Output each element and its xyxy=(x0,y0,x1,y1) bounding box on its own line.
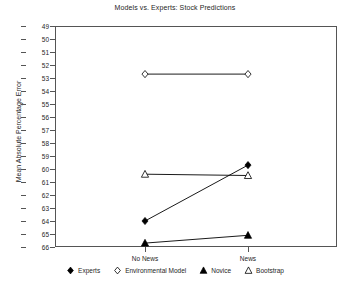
series-experts xyxy=(142,162,251,225)
series-line xyxy=(145,174,248,175)
series-layer xyxy=(0,0,350,288)
series-line xyxy=(145,165,248,221)
chart-legend: ExpertsEnvironmental ModelNoviceBootstra… xyxy=(0,266,350,275)
filled-triangle-icon xyxy=(199,266,208,275)
data-point-marker xyxy=(142,217,148,224)
data-point-marker xyxy=(142,71,148,78)
series-environmental-model xyxy=(142,71,251,78)
legend-item[interactable]: Environmental Model xyxy=(113,266,186,275)
filled-diamond-icon xyxy=(66,266,75,275)
data-point-marker xyxy=(245,71,251,78)
data-point-marker xyxy=(245,162,251,169)
data-point-marker xyxy=(244,232,251,239)
legend-label: Experts xyxy=(78,267,100,274)
legend-label: Bootstrap xyxy=(256,267,284,274)
legend-item[interactable]: Bootstrap xyxy=(244,266,284,275)
series-line xyxy=(145,235,248,243)
open-triangle-icon xyxy=(244,266,253,275)
legend-label: Environmental Model xyxy=(125,267,186,274)
chart-container: Models vs. Experts: Stock Predictions Me… xyxy=(0,0,350,288)
legend-item[interactable]: Experts xyxy=(66,266,100,275)
series-novice xyxy=(141,232,251,247)
legend-label: Novice xyxy=(211,267,231,274)
legend-item[interactable]: Novice xyxy=(199,266,231,275)
open-diamond-icon xyxy=(113,266,122,275)
